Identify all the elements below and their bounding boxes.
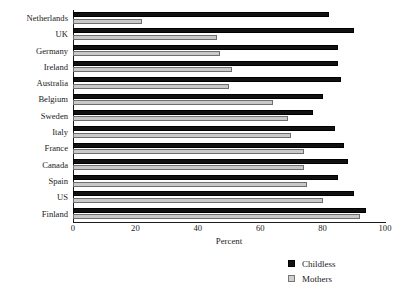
bar-mothers-uk	[73, 35, 217, 40]
bar-childless-belgium	[73, 94, 323, 99]
y-axis-label: Germany	[0, 43, 71, 59]
y-axis-label: Ireland	[0, 59, 71, 75]
x-tick-label: 100	[379, 223, 392, 233]
y-axis-label: France	[0, 140, 71, 156]
bar-group	[73, 91, 385, 107]
bar-mothers-germany	[73, 51, 220, 56]
bar-childless-spain	[73, 175, 338, 180]
y-axis-label: US	[0, 189, 71, 205]
bar-mothers-ireland	[73, 67, 232, 72]
bar-mothers-netherlands	[73, 19, 142, 24]
bar-mothers-belgium	[73, 100, 273, 105]
bar-mothers-france	[73, 149, 304, 154]
y-axis-category-labels: NetherlandsUKGermanyIrelandAustraliaBelg…	[0, 10, 71, 222]
y-axis-label: Sweden	[0, 108, 71, 124]
bar-group	[73, 173, 385, 189]
x-axis-title: Percent	[73, 236, 385, 246]
bar-mothers-us	[73, 198, 323, 203]
bar-group	[73, 75, 385, 91]
bar-childless-italy	[73, 126, 335, 131]
chart-legend: ChildlessMothers	[288, 256, 336, 286]
legend-item-childless: Childless	[288, 256, 336, 271]
y-axis-label: Canada	[0, 157, 71, 173]
bar-childless-france	[73, 143, 344, 148]
y-axis-label: Netherlands	[0, 10, 71, 26]
legend-label: Childless	[302, 259, 336, 269]
y-axis-label: UK	[0, 26, 71, 42]
x-axis-tick-labels: 020406080100	[73, 223, 385, 237]
bar-group	[73, 26, 385, 42]
legend-label: Mothers	[302, 274, 332, 284]
y-axis-label: Italy	[0, 124, 71, 140]
x-tick-label: 40	[194, 223, 203, 233]
bar-chart: NetherlandsUKGermanyIrelandAustraliaBelg…	[0, 0, 405, 300]
bar-group	[73, 206, 385, 222]
bar-mothers-sweden	[73, 116, 288, 121]
bar-group	[73, 108, 385, 124]
bar-rows	[73, 10, 385, 222]
bar-mothers-spain	[73, 182, 307, 187]
bar-group	[73, 140, 385, 156]
bar-mothers-australia	[73, 84, 229, 89]
bar-childless-uk	[73, 28, 354, 33]
bar-childless-sweden	[73, 110, 313, 115]
bar-group	[73, 124, 385, 140]
bar-group	[73, 10, 385, 26]
y-axis-label: Belgium	[0, 91, 71, 107]
x-tick-label: 20	[131, 223, 140, 233]
bar-group	[73, 59, 385, 75]
bar-childless-ireland	[73, 61, 338, 66]
y-axis-label: Finland	[0, 206, 71, 222]
legend-swatch-mothers-icon	[288, 275, 295, 282]
bar-group	[73, 189, 385, 205]
y-axis-label: Spain	[0, 173, 71, 189]
x-tick-label: 60	[256, 223, 265, 233]
legend-swatch-childless-icon	[288, 260, 295, 267]
bar-childless-finland	[73, 208, 366, 213]
bar-mothers-italy	[73, 133, 291, 138]
bar-mothers-canada	[73, 165, 304, 170]
bar-childless-canada	[73, 159, 348, 164]
bar-childless-netherlands	[73, 12, 329, 17]
bar-mothers-finland	[73, 214, 360, 219]
x-tick-label: 0	[71, 223, 75, 233]
bar-group	[73, 43, 385, 59]
bar-childless-australia	[73, 77, 341, 82]
bar-childless-us	[73, 191, 354, 196]
bar-group	[73, 157, 385, 173]
bar-childless-germany	[73, 45, 338, 50]
x-tick-label: 80	[318, 223, 327, 233]
legend-item-mothers: Mothers	[288, 271, 336, 286]
y-axis-label: Australia	[0, 75, 71, 91]
